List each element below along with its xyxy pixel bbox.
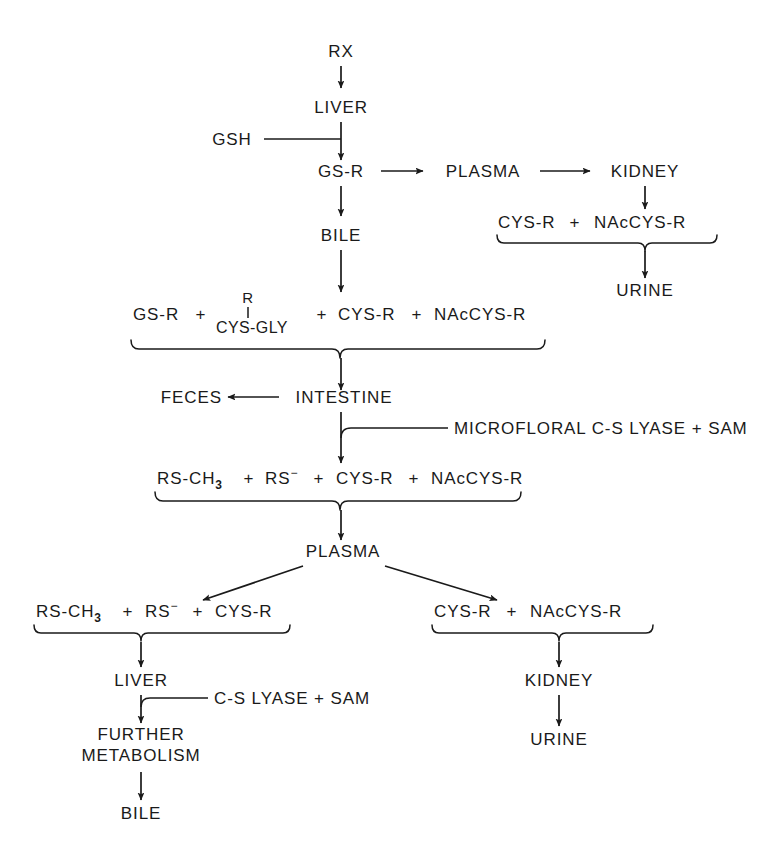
label-plus-1: +: [196, 305, 207, 324]
label-cys-r: CYS-R: [336, 469, 393, 488]
label-rs-anion: RS−: [145, 599, 178, 621]
label-plus-2: +: [314, 469, 325, 488]
label-plus-2: +: [193, 602, 204, 621]
label-rs-anion: RS−: [265, 466, 298, 488]
node-intestine: INTESTINE: [296, 388, 393, 407]
label-r-substituent: R: [242, 289, 254, 306]
label-nac-cys-r: NAcCYS-R: [434, 305, 526, 324]
node-rx: RX: [328, 42, 353, 61]
node-urine-bottom: URINE: [530, 730, 587, 749]
label-cys-r: CYS-R: [338, 305, 395, 324]
label-plus-3: +: [412, 305, 423, 324]
label-plus-2: +: [317, 305, 328, 324]
label-rs-ch3: RS-CH3: [157, 469, 222, 492]
group-plasma-left-metabolites: RS-CH3 + RS− + CYS-R: [34, 599, 290, 641]
label-nac-cys-r: NAcCYS-R: [431, 469, 523, 488]
node-feces: FECES: [161, 388, 222, 407]
node-liver-bottom: LIVER: [114, 671, 168, 690]
underbrace-bile-metabolites: [131, 340, 545, 358]
label-cys-r: CYS-R: [215, 602, 272, 621]
arrow-plasma-to-right-branch: [385, 566, 497, 600]
label-plus: +: [570, 213, 581, 232]
label-rs-ch3: RS-CH3: [36, 602, 101, 625]
node-gs-r: GS-R: [318, 162, 364, 181]
group-kidney-metabolites: CYS-R + NAcCYS-R: [497, 213, 717, 251]
label-microfloral-enzyme: MICROFLORAL C-S LYASE + SAM: [454, 419, 748, 438]
node-metabolism: METABOLISM: [81, 746, 200, 765]
label-gs-r: GS-R: [133, 305, 179, 324]
arrow-plasma-to-left-branch: [203, 566, 303, 600]
label-plus-3: +: [409, 469, 420, 488]
label-nac-cys-r: NAcCYS-R: [530, 602, 622, 621]
node-bile-top: BILE: [321, 226, 361, 245]
label-liver-lyase-enzyme: C-S LYASE + SAM: [214, 689, 370, 708]
label-cys-r: CYS-R: [498, 213, 555, 232]
pathway-svg: RX LIVER GSH GS-R PLASMA KIDNEY CYS-R + …: [0, 0, 779, 861]
label-nac-cys-r: NAcCYS-R: [594, 213, 686, 232]
label-cys-gly: CYS-GLY: [216, 319, 288, 336]
underbrace-kidney-metabolites: [497, 235, 717, 251]
pathway-diagram: RX LIVER GSH GS-R PLASMA KIDNEY CYS-R + …: [0, 0, 779, 861]
label-plus-1: +: [244, 469, 255, 488]
label-plus-1: +: [123, 602, 134, 621]
group-bile-metabolites: GS-R + R CYS-GLY + CYS-R + NAcCYS-R: [131, 289, 545, 358]
label-cys-r: CYS-R: [434, 602, 491, 621]
group-plasma-right-metabolites: CYS-R + NAcCYS-R: [432, 602, 653, 641]
group-intestinal-metabolites: RS-CH3 + RS− + CYS-R + NAcCYS-R: [155, 466, 523, 510]
node-urine-top: URINE: [616, 281, 673, 300]
node-kidney-bottom: KIDNEY: [525, 671, 594, 690]
node-further: FURTHER: [97, 725, 184, 744]
node-gsh: GSH: [212, 130, 252, 149]
node-plasma-top: PLASMA: [446, 162, 520, 181]
node-kidney-top: KIDNEY: [611, 162, 680, 181]
node-plasma-mid: PLASMA: [306, 542, 380, 561]
underbrace-plasma-right-metabolites: [432, 625, 653, 641]
underbrace-plasma-left-metabolites: [34, 625, 290, 641]
label-plus: +: [507, 602, 518, 621]
node-bile-bottom: BILE: [121, 804, 161, 823]
connector-microfloral-enzyme: [341, 428, 448, 438]
underbrace-intestinal-metabolites: [155, 492, 521, 510]
node-liver-top: LIVER: [314, 98, 368, 117]
connector-liver-lyase-enzyme: [141, 698, 208, 707]
